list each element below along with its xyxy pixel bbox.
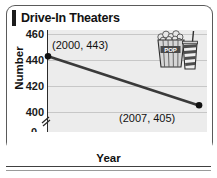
axis-break-icon	[41, 114, 55, 128]
footer-divider-secondary	[6, 170, 211, 171]
popcorn-box-label: POP	[164, 47, 177, 53]
data-label-2000: (2000, 443)	[52, 39, 108, 51]
y-axis-title: Number	[13, 38, 25, 98]
y-tick-label-400: 400	[2, 106, 44, 118]
chart-screenshot: Drive-In Theaters	[0, 0, 217, 178]
frame-bottom-mask	[7, 132, 212, 154]
data-label-2007: (2007, 405)	[119, 112, 175, 124]
data-point-2000[interactable]	[45, 53, 52, 60]
data-point-2007[interactable]	[196, 102, 203, 109]
footer-divider	[6, 166, 211, 167]
popcorn-and-soda-icon: POP	[152, 29, 199, 74]
